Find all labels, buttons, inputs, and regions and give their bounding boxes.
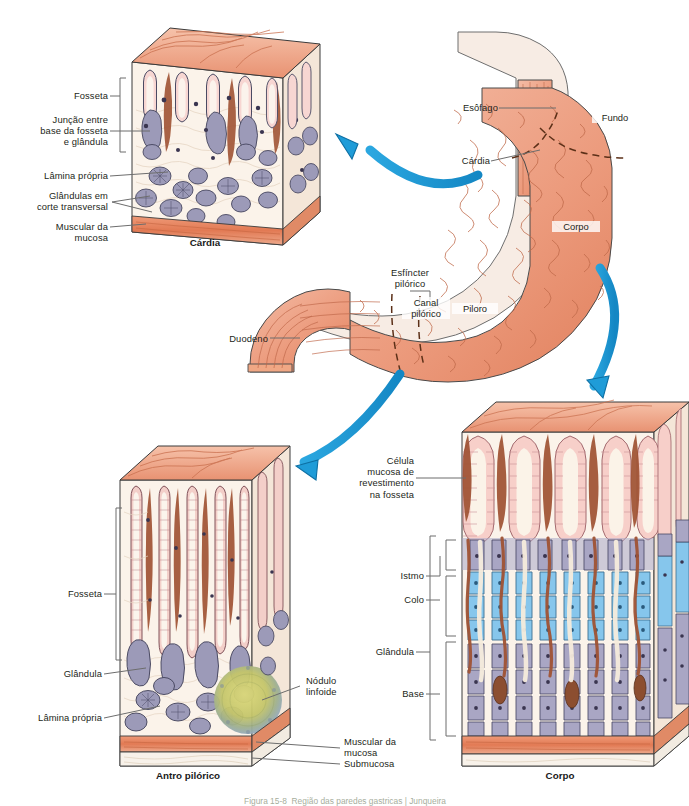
label-cardia-lamina-propria: Lâmina própria [8,170,108,181]
label-celula-mucosa: Célula mucosa de revestimento na fosseta [348,455,414,500]
label-nodulo-linfoide: Nódulo linfoide [306,675,362,697]
label-colo: Colo [380,594,424,605]
label-base: Base [378,688,424,699]
label-submucosa: Submucosa [344,758,416,769]
label-cardia-juncao: Junção entre base da fosseta e glândula [4,114,108,148]
label-esfincter-pilorico: Esfíncter pilórico [372,267,448,289]
label-duodeno: Duodeno [208,333,268,344]
label-corpo-region: Corpo [552,221,600,232]
caption-antro: Antro pilórico [128,770,248,781]
label-antro-glandula: Glândula [34,668,102,679]
label-cardia-muscular-mucosa: Muscular da mucosa [20,221,108,243]
label-cardia-region: Cárdia [434,155,490,166]
figure-caption: Figura 15-8 Região das paredes gastricas… [160,796,530,806]
label-cardia-glandulas-corte: Glândulas em corte transversal [4,190,108,212]
panel-corpo-illustration [462,400,689,766]
panel-cardia-illustration [132,28,320,245]
label-istmo: Istmo [376,570,424,581]
caption-corpo: Corpo [500,770,620,781]
label-antro-lamina-propria: Lâmina própria [10,712,102,723]
label-antro-muscular-mucosa: Muscular da mucosa [344,736,418,758]
label-corpo-glandula: Glândula [350,646,414,657]
label-cardia-fosseta: Fosseta [12,90,108,101]
label-fundo: Fundo [592,112,638,123]
caption-cardia: Cárdia [150,237,260,248]
panel-antro-illustration [120,446,290,766]
label-canal-pilorico: Canal pilórico [402,297,450,319]
label-antro-fosseta: Fosseta [38,588,102,599]
arrow-antro [304,374,400,462]
label-piloro: Piloro [452,303,498,314]
figure-canvas: Fosseta Junção entre base da fosseta e g… [0,0,689,806]
label-esofago: Esôfago [440,102,498,113]
